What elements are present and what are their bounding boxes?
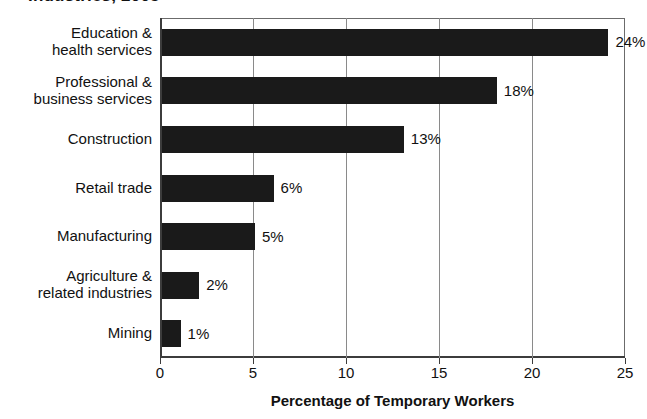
bar (162, 320, 181, 347)
bar-value-label: 18% (504, 82, 534, 99)
x-tick-label: 15 (431, 364, 448, 381)
category-label-line: health services (2, 41, 152, 58)
bar (162, 126, 404, 153)
plot-area: 24%18%13%6%5%2%1% (160, 18, 625, 358)
category-label-line: related industries (2, 284, 152, 301)
category-label: Mining (2, 324, 152, 341)
category-label-line: Manufacturing (2, 227, 152, 244)
bar (162, 175, 274, 202)
bar-value-label: 2% (206, 276, 228, 293)
category-label: Construction (2, 130, 152, 147)
bar (162, 272, 199, 299)
bar-value-label: 5% (262, 228, 284, 245)
category-axis-labels: Education &health servicesProfessional &… (0, 18, 152, 358)
category-label-line: Professional & (2, 73, 152, 90)
bar-value-label: 24% (615, 33, 645, 50)
plot-frame-right (624, 18, 625, 358)
x-axis-line (160, 356, 625, 358)
plot-frame-top (160, 18, 625, 19)
category-label: Agriculture &related industries (2, 267, 152, 301)
category-label-line: Agriculture & (2, 267, 152, 284)
x-tick-label: 5 (249, 364, 257, 381)
x-tick-label: 25 (617, 364, 634, 381)
bar-value-label: 6% (281, 179, 303, 196)
bar-value-label: 1% (188, 325, 210, 342)
category-label: Manufacturing (2, 227, 152, 244)
category-label-line: Mining (2, 324, 152, 341)
bar-value-label: 13% (411, 130, 441, 147)
gridline-15 (439, 18, 440, 358)
category-label: Professional &business services (2, 73, 152, 107)
category-label: Education &health services (2, 24, 152, 58)
x-axis-title: Percentage of Temporary Workers (160, 392, 625, 409)
category-label-line: Construction (2, 130, 152, 147)
gridline-10 (346, 18, 347, 358)
category-label-line: business services (2, 90, 152, 107)
x-tick-label: 0 (156, 364, 164, 381)
category-label-line: Education & (2, 24, 152, 41)
x-tick-label: 10 (338, 364, 355, 381)
category-label: Retail trade (2, 179, 152, 196)
gridline-20 (532, 18, 533, 358)
bar (162, 77, 497, 104)
chart-title: Industries, 2005 (28, 0, 160, 6)
x-tick-label: 20 (524, 364, 541, 381)
bar (162, 223, 255, 250)
bar (162, 29, 608, 56)
category-label-line: Retail trade (2, 179, 152, 196)
